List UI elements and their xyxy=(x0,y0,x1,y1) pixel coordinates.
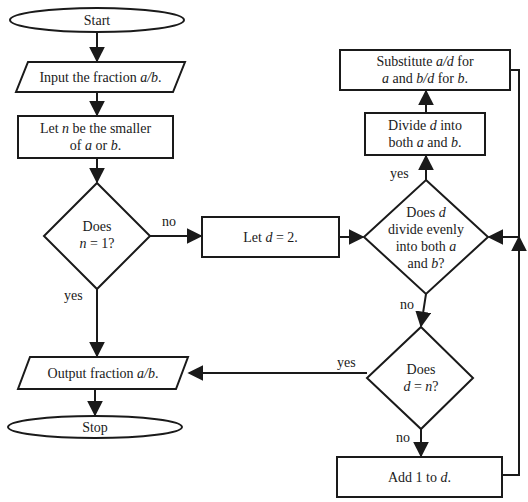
d-equals-n-node: Does d = n? xyxy=(381,358,461,398)
let-d-label: Let d = 2. xyxy=(243,229,298,246)
n-equals-1-line1: Does xyxy=(83,218,112,235)
edge-label-div-yes: yes xyxy=(390,166,409,182)
divide-line2: both a and b. xyxy=(388,134,461,151)
n-equals-1-node: Does n = 1? xyxy=(57,215,137,255)
divides-line3: into both a xyxy=(396,238,457,255)
output-node: Output fraction a/b. xyxy=(18,357,188,389)
let-n-line1: Let n be the smaller xyxy=(40,120,151,137)
input-label: Input the fraction a/b. xyxy=(39,69,161,86)
divides-line1: Does d xyxy=(406,204,445,221)
substitute-node: Substitute a/d for a and b/d for b. xyxy=(340,50,510,90)
start-node: Start xyxy=(10,8,184,32)
n-equals-1-line2: n = 1? xyxy=(79,235,114,252)
add-label: Add 1 to d. xyxy=(388,469,451,486)
d-equals-n-line2: d = n? xyxy=(403,378,438,395)
divides-node: Does d divide evenly into both a and b? xyxy=(371,203,481,273)
edge-label-n1-no: no xyxy=(162,214,176,230)
let-n-line2: of a or b. xyxy=(70,137,121,154)
let-d-node: Let d = 2. xyxy=(202,217,339,257)
stop-label: Stop xyxy=(82,419,108,436)
d-equals-n-line1: Does xyxy=(407,361,436,378)
input-node: Input the fraction a/b. xyxy=(16,62,185,92)
divide-line1: Divide d into xyxy=(388,117,462,134)
divides-line4: and b? xyxy=(408,255,445,272)
stop-node: Stop xyxy=(8,416,182,438)
edge-label-div-no: no xyxy=(400,297,414,313)
edge-label-dn-yes: yes xyxy=(337,355,356,371)
edge-label-n1-yes: yes xyxy=(64,288,83,304)
substitute-line2: a and b/d for b. xyxy=(382,70,468,87)
divides-line2: divide evenly xyxy=(388,221,464,238)
start-label: Start xyxy=(84,12,110,29)
output-label: Output fraction a/b. xyxy=(48,365,159,382)
add-node: Add 1 to d. xyxy=(337,457,502,497)
substitute-line1: Substitute a/d for xyxy=(376,53,473,70)
let-n-node: Let n be the smaller of a or b. xyxy=(18,116,173,158)
edge-label-dn-no: no xyxy=(396,430,410,446)
divide-node: Divide d into both a and b. xyxy=(365,113,485,155)
